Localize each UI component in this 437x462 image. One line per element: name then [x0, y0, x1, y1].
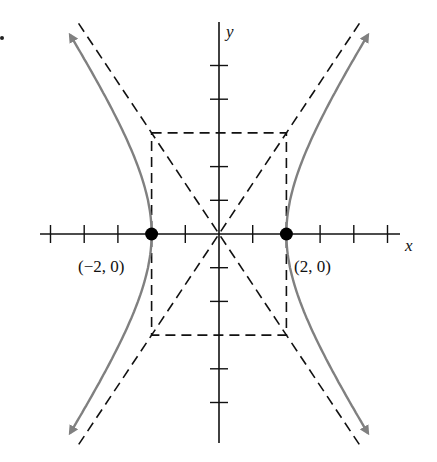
- vertex-label-right: (2, 0): [294, 257, 331, 277]
- coordinate-axes: [40, 22, 400, 443]
- hyperbola-figure: [0, 0, 437, 462]
- vertex-label-left: (−2, 0): [78, 257, 124, 277]
- hyperbola-branch: [286, 35, 367, 234]
- x-axis-label: x: [405, 236, 413, 256]
- hyperbola-branch: [70, 35, 151, 234]
- vertex-point: [280, 228, 293, 241]
- y-axis-label: y: [226, 22, 234, 42]
- vertex-point: [145, 228, 158, 241]
